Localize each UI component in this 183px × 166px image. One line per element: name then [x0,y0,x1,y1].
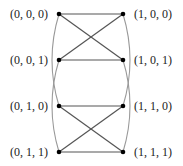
node-dot-n110 [121,104,126,109]
node-dot-n010 [57,104,62,109]
cube-graph-diagram: (0, 0, 0) (0, 0, 1) (0, 1, 0) (0, 1, 1) … [0,0,183,166]
node-label-111: (1, 1, 1) [134,145,172,159]
node-label-001: (0, 0, 1) [0,53,48,67]
node-dot-n001 [57,58,62,63]
node-label-000: (0, 0, 0) [0,7,48,21]
node-label-100: (1, 0, 0) [134,7,172,21]
node-dot-n111 [121,150,126,155]
node-dot-n011 [57,150,62,155]
node-label-101: (1, 0, 1) [134,53,172,67]
node-label-110: (1, 1, 0) [134,99,172,113]
node-dot-n000 [57,12,62,17]
node-dot-n101 [121,58,126,63]
node-label-011: (0, 1, 1) [0,145,48,159]
edges-layer [0,0,183,166]
node-label-010: (0, 1, 0) [0,99,48,113]
node-dot-n100 [121,12,126,17]
